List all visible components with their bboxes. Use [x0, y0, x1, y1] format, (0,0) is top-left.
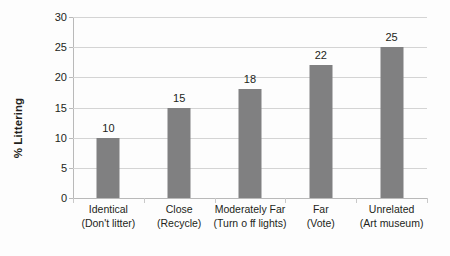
y-tick-label-25: 25: [55, 41, 67, 53]
y-tick-label-15: 15: [55, 102, 67, 114]
y-tick-label-10: 10: [55, 132, 67, 144]
bar-value-label: 18: [244, 73, 256, 85]
bar-value-label: 25: [385, 31, 397, 43]
bar: [309, 65, 332, 198]
y-axis-title: % Littering: [0, 0, 36, 256]
bar-value-label: 15: [173, 92, 185, 104]
y-tick-label-20: 20: [55, 71, 67, 83]
bar: [380, 47, 403, 198]
bar: [97, 138, 120, 198]
x-tick-mark: [427, 198, 428, 203]
category-line-2: (Art museum): [342, 217, 442, 231]
category-line-1: Unrelated: [342, 203, 442, 217]
bar-group: 18: [215, 17, 286, 198]
bar-group: 10: [73, 17, 144, 198]
bar-group: 25: [356, 17, 427, 198]
bar-group: 22: [285, 17, 356, 198]
bar: [238, 89, 261, 198]
y-tick-label-5: 5: [61, 162, 67, 174]
plot-area: 0510152025301015182225: [73, 17, 427, 198]
bar-group: 15: [144, 17, 215, 198]
bar: [168, 108, 191, 199]
x-axis-labels: Identical(Don't litter)Close(Recycle)Mod…: [73, 203, 427, 243]
bar-chart: % Littering 0510152025301015182225 Ident…: [0, 0, 450, 256]
bar-value-label: 10: [102, 122, 114, 134]
x-axis-category-label: Unrelated(Art museum): [342, 203, 442, 230]
y-tick-label-30: 30: [55, 11, 67, 23]
gridline-0: 0: [73, 198, 427, 199]
bar-value-label: 22: [315, 49, 327, 61]
